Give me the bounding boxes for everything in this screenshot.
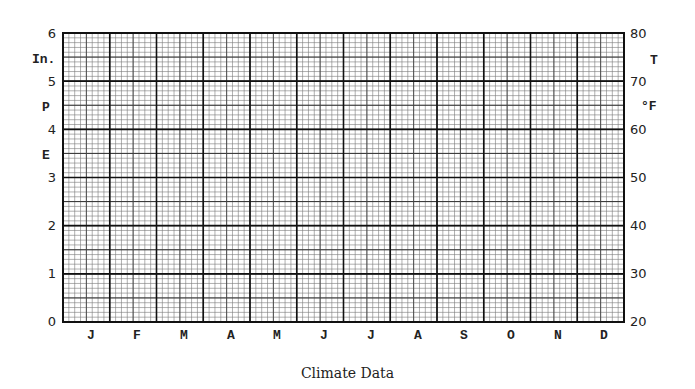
right-axis-unit-label: °F bbox=[641, 100, 657, 113]
right-tick-20: 20 bbox=[630, 315, 647, 328]
left-axis-label-p: P bbox=[42, 101, 50, 114]
month-label-may: M bbox=[254, 328, 300, 343]
right-tick-60: 60 bbox=[630, 123, 647, 136]
right-tick-80: 80 bbox=[630, 27, 647, 40]
month-label-apr: A bbox=[208, 328, 254, 343]
climate-chart: 6 5 4 3 2 1 0 In. P E 80 70 60 50 40 30 … bbox=[0, 0, 695, 389]
right-axis-label-t: T bbox=[650, 54, 658, 67]
left-tick-4: 4 bbox=[36, 123, 56, 136]
right-tick-40: 40 bbox=[630, 219, 647, 232]
chart-caption: Climate Data bbox=[0, 365, 695, 381]
month-label-dec: D bbox=[581, 328, 627, 343]
month-label-jan: J bbox=[68, 328, 114, 343]
month-label-jul: J bbox=[348, 328, 394, 343]
left-tick-3: 3 bbox=[36, 171, 56, 184]
month-label-jun: J bbox=[301, 328, 347, 343]
left-tick-1: 1 bbox=[36, 267, 56, 280]
left-tick-0: 0 bbox=[36, 315, 56, 328]
right-tick-50: 50 bbox=[630, 171, 647, 184]
right-tick-70: 70 bbox=[630, 75, 647, 88]
month-label-oct: O bbox=[488, 328, 534, 343]
month-label-sep: S bbox=[441, 328, 487, 343]
month-label-nov: N bbox=[535, 328, 581, 343]
month-label-aug: A bbox=[395, 328, 441, 343]
left-axis-unit-label: In. bbox=[32, 53, 55, 66]
month-label-feb: F bbox=[114, 328, 160, 343]
right-tick-30: 30 bbox=[630, 267, 647, 280]
left-axis-label-e: E bbox=[42, 149, 50, 162]
left-tick-6: 6 bbox=[36, 27, 56, 40]
left-tick-2: 2 bbox=[36, 219, 56, 232]
left-tick-5: 5 bbox=[36, 75, 56, 88]
month-label-mar: M bbox=[161, 328, 207, 343]
